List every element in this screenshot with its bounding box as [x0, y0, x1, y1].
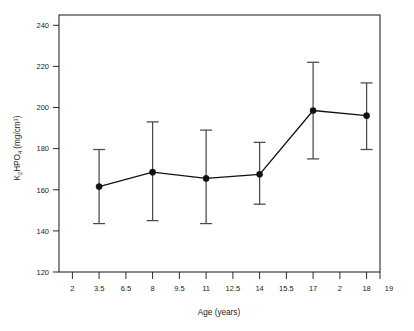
x-axis: 2 3.5 6.5 8 9.5 11 12.5 14 15.5 17 2 18 … [70, 272, 393, 317]
data-point-14 [257, 171, 263, 177]
x-tick-label-1: 3.5 [94, 284, 104, 293]
x-tick-label-9: 17 [309, 284, 317, 293]
x-axis-title: Age (years) [198, 308, 241, 317]
x-tick-label-11: 18 [362, 284, 370, 293]
x-axis-ticks [72, 272, 380, 279]
y-axis-tick-labels: 120 140 160 180 200 220 240 [36, 21, 49, 277]
data-point-17 [310, 107, 316, 113]
y-axis: 120 140 160 180 200 220 240 K2HPO4 (mg/c… [13, 21, 60, 277]
x-axis-tick-labels: 2 3.5 6.5 8 9.5 11 12.5 14 15.5 17 2 18 … [70, 284, 393, 293]
y-tick-label-220: 220 [36, 62, 49, 71]
x-tick-label-0: 2 [70, 284, 74, 293]
x-tick-label-2: 6.5 [121, 284, 131, 293]
x-tick-label-5: 11 [202, 284, 210, 293]
x-tick-label-7: 14 [255, 284, 263, 293]
y-tick-label-140: 140 [36, 227, 49, 236]
y-axis-title-units-close: ) [13, 115, 22, 118]
x-tick-label-6: 12.5 [226, 284, 241, 293]
plot-frame [59, 15, 380, 272]
x-tick-label-12: 19 [385, 284, 393, 293]
y-tick-label-200: 200 [36, 103, 49, 112]
y-axis-title: K2HPO4 (mg/cm3) [13, 115, 24, 180]
data-point-3.5 [96, 184, 102, 190]
y-axis-ticks [53, 25, 59, 272]
data-point-18 [364, 113, 370, 119]
chart-figure: 120 140 160 180 200 220 240 K2HPO4 (mg/c… [0, 0, 414, 331]
x-tick-label-8: 15.5 [279, 284, 294, 293]
x-tick-label-3: 8 [151, 284, 155, 293]
y-tick-label-160: 160 [36, 186, 49, 195]
y-tick-label-180: 180 [36, 144, 49, 153]
y-axis-title-hpo: HPO [13, 154, 22, 172]
error-bar-line-chart: 120 140 160 180 200 220 240 K2HPO4 (mg/c… [0, 0, 414, 331]
x-tick-label-4: 9.5 [174, 284, 184, 293]
y-tick-label-120: 120 [36, 268, 49, 277]
svg-text:K2HPO4 (mg/cm3): K2HPO4 (mg/cm3) [13, 115, 24, 180]
data-point-8 [150, 169, 156, 175]
data-point-11 [203, 175, 209, 181]
y-axis-title-units-open: (mg/cm [13, 121, 22, 151]
x-tick-label-10: 2 [338, 284, 342, 293]
y-tick-label-240: 240 [36, 21, 49, 30]
